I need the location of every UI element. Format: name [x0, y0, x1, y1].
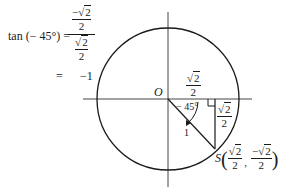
point-x-coordinate: √2 2 [228, 146, 243, 171]
open-paren: ( [221, 149, 228, 169]
numerator-denominator: 2 [79, 20, 85, 32]
big-fraction: −√2 2 √2 2 [68, 7, 95, 62]
denominator-denominator: 2 [79, 50, 85, 62]
equation-result: −1 [80, 70, 93, 82]
angle-label: − 45° [176, 102, 198, 112]
comma: , [244, 156, 247, 168]
point-y-coordinate: −√2 2 [251, 146, 272, 171]
radius-label: 1 [184, 128, 189, 138]
radicand: 2 [224, 102, 231, 115]
origin-label: O [154, 86, 163, 98]
equals-sign: = [56, 70, 63, 82]
denominator: 2 [259, 159, 265, 171]
radicand: 2 [235, 144, 242, 157]
denominator: 2 [191, 86, 197, 98]
big-fraction-numerator: −√2 2 [68, 7, 95, 35]
radicand: 2 [193, 71, 200, 84]
vertical-leg-label: √2 2 [217, 104, 232, 129]
equation-lhs: tan (− 45°) = [8, 30, 70, 42]
radicand: 2 [84, 5, 91, 18]
point-s-label: S ( √2 2 , −√2 2 ) [215, 146, 278, 171]
radicand: 2 [81, 35, 88, 48]
big-fraction-denominator: √2 2 [75, 35, 88, 62]
radicand: 2 [264, 144, 271, 157]
sqrt-symbol: √ [229, 145, 235, 157]
close-paren: ) [272, 149, 279, 169]
denominator: 2 [232, 159, 238, 171]
horizontal-leg-label: √2 2 [186, 73, 201, 98]
denominator: 2 [222, 117, 228, 129]
right-angle-marker [208, 99, 215, 106]
